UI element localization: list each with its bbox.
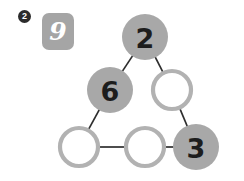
edge-right-middle-bottom-right (180, 108, 188, 126)
node-circle-bottom-left[interactable] (60, 128, 98, 166)
edge-top-right-middle (155, 57, 163, 73)
node-circle-right-middle[interactable] (153, 71, 191, 109)
node-bottom-middle[interactable] (126, 128, 164, 166)
node-circle-bottom-middle[interactable] (126, 128, 164, 166)
edge-top-left-middle (122, 55, 133, 71)
node-left-middle[interactable]: 6 (87, 67, 133, 113)
node-label-top: 2 (136, 23, 155, 54)
node-label-left-middle: 6 (101, 76, 120, 107)
node-top[interactable]: 2 (122, 14, 168, 60)
node-bottom-left[interactable] (60, 128, 98, 166)
magic-triangle-diagram: 263 (0, 0, 244, 181)
puzzle-canvas: 2 9 263 (0, 0, 244, 181)
edge-left-middle-bottom-left (89, 109, 100, 129)
node-bottom-right[interactable]: 3 (173, 124, 219, 170)
node-right-middle[interactable] (153, 71, 191, 109)
node-group: 263 (60, 14, 219, 170)
node-label-bottom-right: 3 (187, 133, 206, 164)
